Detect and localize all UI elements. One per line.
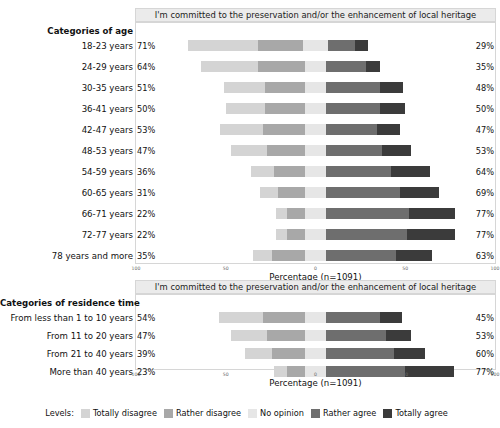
legend-swatch-icon — [164, 409, 173, 418]
legend-swatch-icon — [81, 409, 90, 418]
bar-segment — [305, 348, 327, 359]
bar-segment — [258, 40, 303, 51]
facet-title-age: I'm committed to the preservation and/or… — [135, 8, 496, 22]
bar-segment — [276, 229, 287, 240]
bar-segment — [251, 166, 274, 177]
legend-swatch-icon — [248, 409, 257, 418]
stacked-bar — [0, 250, 500, 261]
bar-segment — [305, 61, 327, 72]
bar-segment — [267, 330, 305, 341]
legend-label: Rather agree — [323, 408, 376, 418]
legend-title: Levels: — [45, 408, 74, 418]
bar-segment — [226, 103, 265, 114]
bar-segment — [326, 208, 409, 219]
bar-segment — [305, 208, 327, 219]
bar-segment — [263, 124, 304, 135]
stacked-bar — [0, 312, 500, 323]
panel-categories-of-age: I'm committed to the preservation and/or… — [0, 8, 500, 276]
bar-segment — [231, 330, 267, 341]
bar-segment — [326, 166, 391, 177]
bar-segment — [287, 229, 305, 240]
bar-segment — [201, 61, 258, 72]
stacked-bar — [0, 40, 500, 51]
bar-segment — [326, 312, 380, 323]
stacked-bar — [0, 61, 500, 72]
legend-item[interactable]: Totally disagree — [81, 408, 157, 418]
facet-title-text-residence: I'm committed to the preservation and/or… — [136, 281, 495, 293]
bar-segment — [305, 250, 327, 261]
group-header-age: Categories of age — [0, 26, 133, 36]
bar-segment — [355, 40, 368, 51]
bar-segment — [326, 250, 396, 261]
bar-segment — [265, 82, 304, 93]
legend-item[interactable]: Totally agree — [383, 408, 447, 418]
facet-title-residence: I'm committed to the preservation and/or… — [135, 280, 496, 294]
group-header-residence: Categories of residence time — [0, 298, 133, 308]
bar-segment — [245, 348, 272, 359]
bar-segment — [305, 82, 327, 93]
stacked-bar — [0, 124, 500, 135]
plot-area-age — [135, 22, 496, 264]
bar-segment — [305, 312, 327, 323]
bar-segment — [326, 330, 385, 341]
bar-segment — [224, 82, 265, 93]
bar-segment — [380, 82, 403, 93]
bar-segment — [260, 187, 278, 198]
bar-segment — [219, 312, 264, 323]
legend-swatch-icon — [383, 409, 392, 418]
bar-segment — [253, 250, 273, 261]
bar-segment — [278, 187, 305, 198]
stacked-bar — [0, 208, 500, 219]
legend-item[interactable]: Rather disagree — [164, 408, 241, 418]
bar-segment — [305, 229, 327, 240]
bar-segment — [265, 103, 304, 114]
bar-segment — [326, 187, 400, 198]
legend-item[interactable]: No opinion — [248, 408, 304, 418]
bar-segment — [305, 187, 327, 198]
legend-item[interactable]: Rather agree — [311, 408, 376, 418]
bar-segment — [386, 330, 411, 341]
bar-segment — [326, 103, 380, 114]
likert-chart: I'm committed to the preservation and/or… — [0, 0, 500, 428]
stacked-bar — [0, 82, 500, 93]
bar-segment — [305, 330, 327, 341]
bar-segment — [305, 145, 327, 156]
bar-segment — [326, 229, 407, 240]
bar-segment — [267, 145, 305, 156]
bar-segment — [326, 61, 365, 72]
bar-segment — [272, 348, 304, 359]
legend-label: Rather disagree — [176, 408, 241, 418]
bar-segment — [258, 61, 305, 72]
bar-segment — [380, 312, 402, 323]
bar-segment — [231, 145, 267, 156]
bar-segment — [407, 229, 455, 240]
bar-segment — [394, 348, 425, 359]
bar-segment — [326, 124, 376, 135]
bar-segment — [326, 348, 394, 359]
bar-segment — [272, 250, 304, 261]
stacked-bar — [0, 103, 500, 114]
legend-label: Totally disagree — [93, 408, 157, 418]
stacked-bar — [0, 166, 500, 177]
legend-label: Totally agree — [395, 408, 447, 418]
legend: Levels: Totally disagreeRather disagreeN… — [0, 408, 500, 418]
bar-segment — [303, 40, 328, 51]
bar-segment — [382, 145, 411, 156]
stacked-bar — [0, 229, 500, 240]
bar-segment — [366, 61, 380, 72]
bar-segment — [220, 124, 263, 135]
bar-segment — [326, 145, 382, 156]
legend-label: No opinion — [260, 408, 304, 418]
bar-segment — [377, 124, 400, 135]
bar-segment — [188, 40, 258, 51]
bar-segment — [328, 40, 355, 51]
x-axis-title-residence: Percentage (n=1091) — [135, 378, 496, 388]
stacked-bar — [0, 145, 500, 156]
stacked-bar — [0, 348, 500, 359]
bar-segment — [380, 103, 405, 114]
bar-segment — [305, 124, 327, 135]
legend-swatch-icon — [311, 409, 320, 418]
bar-segment — [276, 208, 287, 219]
bar-segment — [391, 166, 430, 177]
bar-segment — [400, 187, 439, 198]
